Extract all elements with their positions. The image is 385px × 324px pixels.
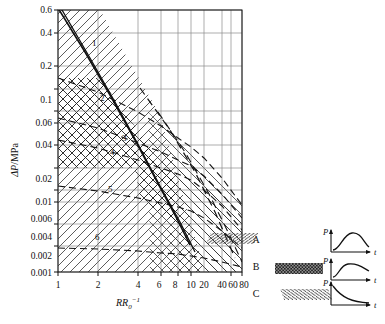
- x-tick-1: 1: [56, 280, 61, 290]
- curve-label-1: 1: [92, 38, 97, 48]
- y-tick-0.2: 0.2: [40, 61, 52, 71]
- y-tick-0.002: 0.002: [31, 251, 53, 261]
- y-tick-0.06: 0.06: [35, 118, 52, 128]
- legend-miniplot-b: P t: [322, 256, 377, 285]
- x-tick-2: 2: [96, 280, 101, 290]
- y-tick-0.02: 0.02: [35, 174, 52, 184]
- x-title-sup: −1: [132, 296, 140, 304]
- x-tick-60: 60: [228, 280, 238, 290]
- legend-swatch-c: [280, 289, 332, 300]
- y-title-unit: /MPa: [9, 143, 20, 165]
- x-axis: 1 2 4 6 8 10 20 40 60 80: [56, 272, 249, 290]
- y-tick-0.1: 0.1: [40, 95, 52, 105]
- legend-letter-c: C: [253, 288, 260, 299]
- x-tick-10: 10: [186, 280, 196, 290]
- y-axis: 0.6 0.4 0.2 0.1 0.06 0.04 0.02 0.01 0.00…: [31, 5, 58, 278]
- y-tick-0.01: 0.01: [35, 197, 52, 207]
- y-tick-0.006: 0.006: [31, 214, 53, 224]
- mini-a-xlabel: t: [374, 247, 377, 257]
- curve-label-5: 5: [108, 184, 113, 194]
- legend-row-b: B P t: [253, 256, 377, 285]
- x-tick-4: 4: [136, 280, 141, 290]
- mini-b-ylabel: P: [322, 256, 328, 266]
- chart-svg: 1 2 3 4 5 6 0.6 0.4: [0, 0, 385, 324]
- legend-swatch-b: [275, 263, 323, 274]
- y-axis-title: ΔP/MPa: [9, 143, 20, 178]
- mini-c-ylabel: P: [322, 278, 328, 288]
- y-title-p: P: [9, 165, 20, 172]
- x-tick-40: 40: [217, 280, 227, 290]
- curve-label-2: 2: [100, 93, 105, 103]
- y-tick-0.4: 0.4: [40, 28, 52, 38]
- curve-label-3: 3: [122, 133, 127, 143]
- mini-a-ylabel: P: [322, 227, 328, 237]
- x-title-rr: RR: [115, 297, 128, 308]
- legend-row-c: C P t: [253, 278, 377, 310]
- mini-b-xlabel: t: [374, 275, 377, 285]
- legend-letter-b: B: [253, 261, 260, 272]
- legend-swatch-a: [206, 233, 258, 244]
- x-tick-8: 8: [173, 280, 178, 290]
- y-tick-0.6: 0.6: [40, 5, 52, 15]
- curve-label-4: 4: [110, 147, 115, 157]
- x-tick-6: 6: [157, 280, 162, 290]
- figure-container: 1 2 3 4 5 6 0.6 0.4: [0, 0, 385, 324]
- plot-area: 1 2 3 4 5 6 0.6 0.4: [9, 5, 249, 311]
- y-tick-0.04: 0.04: [35, 140, 52, 150]
- y-tick-0.004: 0.004: [31, 232, 53, 242]
- legend-miniplot-a: P t: [322, 227, 377, 257]
- x-tick-20: 20: [199, 280, 209, 290]
- y-tick-0.001: 0.001: [31, 268, 53, 278]
- curve-label-6: 6: [95, 232, 100, 242]
- x-tick-80: 80: [239, 280, 249, 290]
- x-axis-title: RR0−1: [115, 296, 140, 311]
- legend-miniplot-c: P t: [322, 278, 377, 310]
- svg-text:ΔP/MPa: ΔP/MPa: [9, 143, 20, 178]
- mini-c-xlabel: t: [374, 300, 377, 310]
- x-title-sub: 0: [128, 303, 132, 311]
